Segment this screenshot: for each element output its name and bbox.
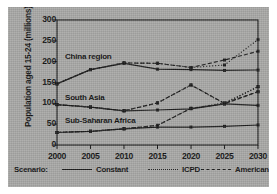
x-tick-label: 2005: [74, 151, 108, 161]
region-label: Sub-Saharan Africa: [65, 116, 135, 125]
legend-label: American: [235, 165, 269, 174]
legend-line-icon: [148, 169, 178, 172]
legend-label: ICPD: [182, 165, 200, 174]
x-tick-label: 2015: [141, 151, 175, 161]
legend-line-icon: [201, 169, 231, 172]
x-tick-label: 2030: [241, 151, 269, 161]
x-tick-label: 2010: [107, 151, 141, 161]
legend-title: Scenario:: [14, 165, 48, 174]
x-tick-label: 2000: [40, 151, 74, 161]
chart-legend: Scenario: ConstantICPDAmerican: [8, 162, 269, 182]
x-tick-label: 2025: [208, 151, 242, 161]
legend-line-icon: [62, 169, 92, 172]
region-label: China region: [65, 52, 112, 61]
legend-label: Constant: [96, 165, 128, 174]
region-label: South Asia: [65, 93, 105, 102]
x-tick-label: 2020: [174, 151, 208, 161]
chart-figure: Population aged 15-24 (millions) 0501001…: [8, 7, 269, 187]
x-axis-ticklabels: 2000200520102015202020252030: [8, 7, 269, 187]
